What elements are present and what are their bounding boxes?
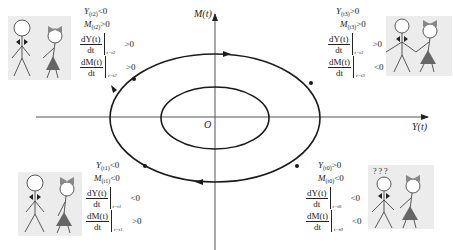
inequality: >0 [132,216,142,226]
numerator: dM(t) [328,57,351,68]
couple-apart-figure-bottom-left [18,172,82,236]
evaluation-point: t=t3 [356,71,365,81]
inequality: >0 [100,19,110,29]
conditions-t0: Y(t0)>0 M(t0)<0 dY(t)dt t=t0 <0 dM(t)dt … [306,160,362,232]
derivative-dM: dM(t)dt t=t3 <0 [328,56,384,78]
derivative-dY: dY(t)dt t=t3 >0 [328,33,384,55]
inequality: >0 [126,62,136,72]
phase-plot: ? ? ? [0,0,453,250]
derivative-dY: dY(t)dt t=t2 >0 [80,33,136,55]
arrow-left-icon [111,85,117,93]
subscript: (t3) [341,11,350,17]
numerator: dY(t) [328,34,350,45]
evaluation-point: t=t1 [113,202,122,212]
numerator: dM(t) [80,57,103,68]
conditions-t3: Y(t3)>0 M(t3)>0 dY(t)dt t=t3 >0 dM(t)dt … [328,6,384,78]
inequality: <0 [374,62,384,72]
origin-label: O [204,119,211,130]
conditions-t2: Y(t2)<0 M(t2)>0 dY(t)dt t=t2 >0 dM(t)dt … [80,6,136,78]
conditions-t1: Y(t1)<0 M(t1)<0 dY(t)dt t=t1 <0 dM(t)dt … [86,160,142,232]
question-marks: ? ? ? [373,167,388,176]
numerator: dY(t) [80,34,102,45]
diagram-canvas: ? ? ? M(t) Y(t) O Y(t2)<0 M(t2)>0 dY(t)d… [0,0,453,250]
evaluation-point: t=t0 [333,202,342,212]
point-t0-dot [295,164,299,168]
numerator: dY(t) [86,188,108,199]
denominator: dt [336,68,343,78]
denominator: dt [93,199,100,209]
inequality: >0 [373,39,383,49]
inequality: <0 [98,6,108,16]
subscript: (t3) [348,24,357,30]
couple-confused-figure-bottom-right: ? ? ? [368,165,434,229]
subscript: (t2) [89,11,98,17]
derivative-dM: dM(t)dt t=t2 >0 [80,56,136,78]
derivative-dY: dY(t)dt t=t0 <0 [306,187,362,209]
arrow-bottom-icon [195,179,203,185]
var-label: M [340,19,348,29]
subscript: (t1) [102,178,111,184]
numerator: dM(t) [86,211,109,222]
inequality: >0 [332,160,342,170]
inequality: <0 [351,193,361,203]
derivative-dY: dY(t)dt t=t1 <0 [86,187,142,209]
var-label: M [84,19,92,29]
denominator: dt [94,222,101,232]
x-axis-label: Y(t) [412,121,427,132]
numerator: dY(t) [306,188,328,199]
evaluation-point: t=t2 [107,48,116,58]
arrow-top-icon [223,51,231,57]
inequality: <0 [352,216,362,226]
evaluation-point: t=t1 [114,225,123,235]
denominator: dt [335,45,342,55]
denominator: dt [87,45,94,55]
inequality: >0 [350,6,360,16]
inequality: <0 [334,173,344,183]
denominator: dt [313,199,320,209]
var-label: M [94,173,102,183]
inequality: <0 [131,193,141,203]
inequality: <0 [110,160,120,170]
denominator: dt [88,68,95,78]
evaluation-point: t=t0 [334,225,343,235]
inequality: >0 [356,19,366,29]
couple-apart-figure-top-left [8,16,71,80]
evaluation-point: t=t3 [355,48,364,58]
inequality: >0 [125,39,135,49]
y-axis-label: M(t) [194,8,212,19]
evaluation-point: t=t2 [108,71,117,81]
inequality: <0 [110,173,120,183]
numerator: dM(t) [306,211,329,222]
point-t3-dot [309,81,313,85]
subscript: (t0) [326,178,335,184]
subscript: (t1) [101,165,110,171]
subscript: (t2) [92,24,101,30]
derivative-dM: dM(t)dt t=t0 <0 [306,210,362,232]
subscript: (t0) [323,165,332,171]
couple-holding-hands-figure-top-right [386,16,452,76]
denominator: dt [314,222,321,232]
point-t1-dot [143,164,147,168]
var-label: M [318,173,326,183]
derivative-dM: dM(t)dt t=t1 >0 [86,210,142,232]
